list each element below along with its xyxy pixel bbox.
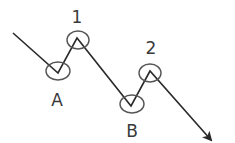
point-b-label: B <box>126 121 138 141</box>
point-1-label: 1 <box>72 7 83 27</box>
zigzag-wave-line <box>13 33 211 140</box>
point-2-circle <box>139 64 161 82</box>
point-labels: A 1 B 2 <box>51 7 156 141</box>
point-2-label: 2 <box>146 38 157 58</box>
point-a-circle <box>46 62 70 80</box>
wave-diagram-canvas: A 1 B 2 <box>0 0 235 143</box>
point-a-label: A <box>51 90 63 110</box>
wave-diagram: A 1 B 2 <box>0 0 235 143</box>
